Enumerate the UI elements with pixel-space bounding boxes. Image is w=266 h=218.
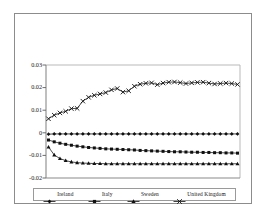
legend-item-italy: Italy: [88, 191, 113, 198]
data-point-square: [196, 151, 199, 154]
data-point-square: [93, 200, 96, 203]
chart-legend: IrelandItalySwedenUnited Kingdom: [33, 188, 236, 201]
data-point-square: [81, 145, 84, 148]
data-point-square: [144, 149, 147, 152]
data-point-square: [99, 147, 102, 150]
data-point-diamond: [150, 132, 154, 136]
data-point-diamond: [230, 132, 234, 136]
legend-label: Sweden: [141, 192, 159, 197]
data-point-diamond: [127, 132, 131, 136]
legend-marker-square-icon: [88, 191, 101, 198]
data-point-diamond: [70, 132, 74, 136]
data-point-diamond: [167, 132, 171, 136]
data-point-diamond: [52, 132, 56, 136]
legend-label: Ireland: [57, 192, 73, 197]
legend-label: Italy: [102, 192, 113, 197]
data-point-diamond: [161, 132, 165, 136]
data-point-square: [121, 148, 124, 151]
data-point-diamond: [75, 132, 79, 136]
figure-container: 0.030.020.010-0.01-0.02 IrelandItalySwed…: [0, 0, 266, 218]
data-point-diamond: [201, 132, 205, 136]
data-point-square: [173, 150, 176, 153]
data-point-square: [225, 151, 228, 154]
data-point-diamond: [190, 132, 194, 136]
data-point-diamond: [58, 132, 62, 136]
data-point-diamond: [48, 200, 52, 204]
data-point-square: [230, 151, 233, 154]
data-point-cross: [52, 113, 56, 117]
data-point-diamond: [92, 132, 96, 136]
legend-item-united-kingdom: United Kingdom: [173, 191, 225, 198]
data-point-square: [156, 150, 159, 153]
data-point-diamond: [98, 132, 102, 136]
data-point-diamond: [196, 132, 200, 136]
data-point-diamond: [155, 132, 159, 136]
data-point-diamond: [224, 132, 228, 136]
data-point-cross: [132, 84, 136, 88]
data-point-diamond: [133, 132, 137, 136]
data-point-square: [70, 144, 73, 147]
data-point-diamond: [87, 132, 91, 136]
legend-label: United Kingdom: [187, 192, 225, 197]
data-point-diamond: [115, 132, 119, 136]
data-point-square: [116, 148, 119, 151]
data-point-diamond: [178, 132, 182, 136]
data-point-square: [110, 148, 113, 151]
data-point-cross: [46, 117, 50, 121]
data-point-square: [179, 150, 182, 153]
data-point-diamond: [104, 132, 108, 136]
data-point-square: [190, 151, 193, 154]
data-point-square: [213, 151, 216, 154]
data-point-cross: [86, 95, 90, 99]
data-point-square: [64, 143, 67, 146]
data-point-cross: [155, 82, 159, 86]
data-point-triangle: [47, 145, 51, 149]
data-point-diamond: [110, 132, 114, 136]
data-point-square: [184, 151, 187, 154]
data-point-square: [127, 148, 130, 151]
data-point-diamond: [64, 132, 68, 136]
data-point-cross: [58, 111, 62, 115]
data-point-diamond: [47, 132, 51, 136]
data-point-triangle: [58, 156, 62, 160]
data-point-square: [167, 150, 170, 153]
data-point-square: [53, 140, 56, 143]
data-point-diamond: [144, 132, 148, 136]
data-point-square: [207, 151, 210, 154]
data-point-square: [219, 151, 222, 154]
data-point-diamond: [138, 132, 142, 136]
series-ireland: [47, 132, 240, 136]
data-point-diamond: [121, 132, 125, 136]
data-point-square: [162, 150, 165, 153]
data-point-square: [47, 139, 50, 142]
data-point-square: [87, 146, 90, 149]
data-point-square: [139, 149, 142, 152]
data-point-square: [93, 146, 96, 149]
data-point-cross: [81, 99, 85, 103]
legend-item-ireland: Ireland: [43, 191, 73, 198]
legend-marker-triangle-icon: [127, 191, 140, 198]
data-point-square: [104, 147, 107, 150]
data-point-square: [236, 152, 239, 155]
data-point-square: [58, 142, 61, 145]
data-point-square: [76, 145, 79, 148]
legend-marker-diamond-icon: [43, 191, 56, 198]
series-united-kingdom: [46, 80, 239, 121]
series-sweden: [47, 145, 240, 165]
data-point-diamond: [236, 132, 240, 136]
data-point-diamond: [173, 132, 177, 136]
legend-item-sweden: Sweden: [127, 191, 159, 198]
data-point-diamond: [218, 132, 222, 136]
data-point-diamond: [213, 132, 217, 136]
data-point-square: [202, 151, 205, 154]
series-line: [49, 82, 238, 119]
data-point-square: [133, 148, 136, 151]
legend-marker-cross-icon: [173, 191, 186, 198]
data-point-cross: [63, 109, 67, 113]
data-point-square: [150, 149, 153, 152]
data-point-diamond: [81, 132, 85, 136]
data-point-diamond: [184, 132, 188, 136]
data-point-diamond: [207, 132, 211, 136]
line-chart-plot: [0, 0, 266, 218]
series-italy: [47, 139, 239, 155]
